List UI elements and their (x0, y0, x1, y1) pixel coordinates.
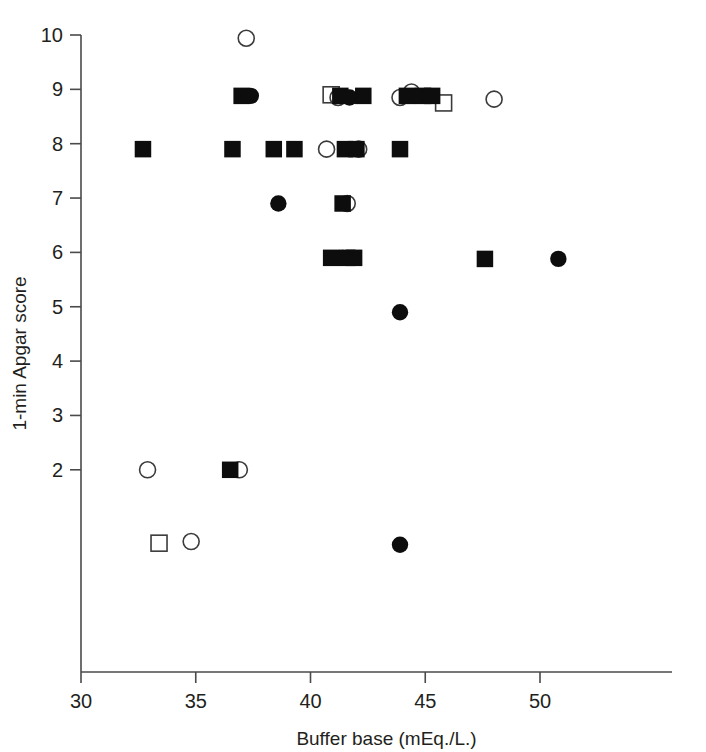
data-point-filled-square (222, 462, 239, 479)
axis-labels-group: Buffer base (mEq./L.)1-min Apgar score (9, 276, 477, 749)
data-point-open-circle (183, 534, 199, 550)
scatter-plot-figure: 23456789103035404550 Buffer base (mEq./L… (0, 0, 706, 752)
data-point-filled-circle (392, 537, 408, 553)
x-axis-tick-label: 35 (185, 690, 207, 712)
x-axis-title: Buffer base (mEq./L.) (296, 728, 476, 749)
data-point-filled-circle (392, 304, 408, 320)
data-point-open-circle (319, 141, 335, 157)
y-axis-tick-label: 5 (52, 296, 63, 318)
plot-canvas: 23456789103035404550 Buffer base (mEq./L… (0, 0, 706, 752)
data-point-filled-circle (334, 250, 350, 266)
y-axis-title: 1-min Apgar score (9, 276, 30, 430)
data-markers-group (135, 30, 567, 553)
x-axis-tick-label: 50 (529, 690, 551, 712)
data-point-filled-square (286, 141, 303, 158)
data-point-open-circle (140, 462, 156, 478)
data-point-filled-square (224, 141, 241, 158)
data-point-filled-circle (550, 251, 566, 267)
data-point-open-square (151, 535, 167, 551)
axes-group: 23456789103035404550 (41, 24, 672, 712)
data-point-filled-square (392, 141, 409, 158)
y-axis-tick-label: 10 (41, 24, 63, 46)
data-point-filled-square (477, 251, 494, 268)
x-axis-tick-label: 30 (70, 690, 92, 712)
y-axis-tick-label: 6 (52, 241, 63, 263)
y-axis-tick-label: 4 (52, 350, 63, 372)
y-axis-tick-label: 7 (52, 187, 63, 209)
data-point-filled-circle (408, 88, 424, 104)
data-point-filled-square (348, 141, 365, 158)
data-point-open-circle (238, 30, 254, 46)
x-axis-tick-label: 45 (414, 690, 436, 712)
data-point-filled-circle (341, 89, 357, 105)
data-point-open-circle (486, 91, 502, 107)
y-axis-tick-label: 9 (52, 78, 63, 100)
data-point-filled-square (135, 141, 152, 158)
y-axis-tick-label: 2 (52, 459, 63, 481)
data-point-filled-circle (270, 195, 286, 211)
data-point-filled-square (266, 141, 283, 158)
y-axis-tick-label: 3 (52, 404, 63, 426)
x-axis-tick-label: 40 (299, 690, 321, 712)
data-point-filled-circle (243, 88, 259, 104)
data-point-filled-square (334, 195, 351, 212)
data-point-filled-square (424, 88, 441, 105)
y-axis-tick-label: 8 (52, 133, 63, 155)
